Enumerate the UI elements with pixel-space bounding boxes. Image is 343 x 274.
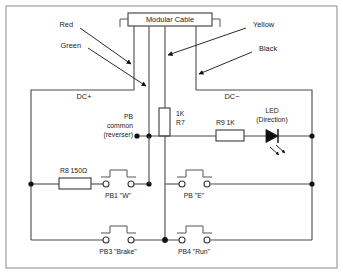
led-direction — [266, 129, 285, 155]
led-emission-arrow-1 — [270, 147, 279, 155]
pbe-label: PB "E" — [184, 192, 205, 199]
pb4-actuator — [177, 226, 212, 233]
node-yellow-bottom — [162, 237, 168, 243]
node-row-b-right — [309, 181, 314, 186]
dc-negative-rail — [196, 90, 312, 240]
r7-value: 1K — [176, 110, 185, 117]
r7-ref: R7 — [176, 119, 185, 126]
pb3-label: PB3 "Brake" — [99, 248, 137, 255]
modular-cable-label: Modular Cable — [146, 15, 194, 24]
pb3-terminal-left — [103, 237, 109, 243]
pb4-terminal-right — [204, 237, 210, 243]
pushbutton-pb1[interactable] — [101, 170, 136, 187]
resistor-r8 — [59, 178, 91, 189]
led-label-line2: (Direction) — [256, 116, 287, 124]
label-green: Green — [60, 41, 81, 50]
pb3-terminal-right — [128, 237, 134, 243]
pushbutton-pbe[interactable] — [177, 170, 212, 187]
label-dc-negative: DC− — [225, 92, 240, 101]
resistor-r7 — [159, 108, 170, 136]
pushbutton-pb3[interactable] — [101, 226, 136, 243]
label-red: Red — [59, 20, 73, 29]
pbe-terminal-right — [204, 181, 210, 187]
pb4-label: PB4 "Run" — [178, 248, 211, 255]
schematic-canvas: Modular Cable Red Green Yellow Black DC+… — [0, 0, 343, 274]
pb3-actuator — [101, 226, 136, 233]
r8-label: R8 150Ω — [60, 167, 87, 174]
pb1-label: PB1 "W" — [105, 192, 132, 199]
circuit-diagram: Modular Cable Red Green Yellow Black DC+… — [0, 0, 343, 274]
leader-yellow — [168, 28, 246, 55]
dc-positive-rail — [31, 90, 134, 240]
cable-bracket-left — [120, 19, 128, 27]
label-black: Black — [259, 44, 277, 53]
pb1-terminal-left — [103, 181, 109, 187]
wire-callouts — [80, 28, 252, 86]
node-row-b-left — [28, 181, 33, 186]
pb-common-line2: common — [107, 122, 133, 129]
pb-common-line3: (reverser) — [104, 131, 133, 139]
pushbutton-pb4[interactable] — [177, 226, 212, 243]
led-triangle — [266, 130, 278, 143]
diagram-border — [6, 6, 337, 268]
pb1-actuator — [101, 170, 136, 177]
r8-body — [59, 178, 91, 189]
node-led-return — [309, 133, 314, 138]
pbe-actuator — [177, 170, 212, 177]
pb-common-line1: PB — [124, 113, 134, 120]
r9-label: R9 1K — [216, 119, 235, 126]
r7-body — [159, 108, 170, 136]
led-label-line1: LED — [265, 107, 278, 114]
cable-bracket-right — [212, 19, 220, 27]
pbe-terminal-left — [179, 181, 185, 187]
r9-body — [216, 130, 244, 141]
label-yellow: Yellow — [253, 20, 275, 29]
leader-red — [80, 28, 131, 64]
leader-black — [199, 52, 252, 74]
led-emission-arrow-2 — [276, 145, 285, 153]
resistor-r9 — [216, 130, 244, 141]
pb1-terminal-right — [128, 181, 134, 187]
label-dc-positive: DC+ — [77, 92, 92, 101]
node-pb-common — [134, 133, 139, 138]
pb4-terminal-left — [179, 237, 185, 243]
